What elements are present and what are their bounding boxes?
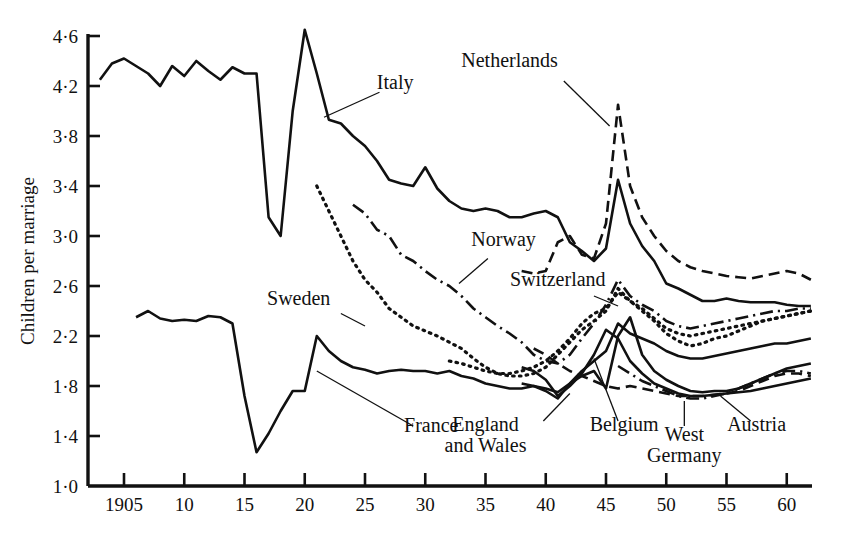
- x-axis-tick-label: 20: [295, 494, 314, 515]
- y-axis-tick-label: 3·8: [53, 126, 78, 147]
- y-axis-title: Children per marriage: [17, 177, 38, 345]
- series-label-england-and-wales: England: [452, 413, 519, 436]
- x-axis-tick-label: 45: [597, 494, 616, 515]
- x-axis-tick-label: 50: [657, 494, 676, 515]
- x-axis-tick-label: 1905: [105, 494, 143, 515]
- series-label-west-germany: West: [665, 423, 705, 445]
- series-label-switzerland: Switzerland: [510, 268, 606, 290]
- series-label-belgium: Belgium: [590, 413, 659, 436]
- x-axis-tick-label: 15: [235, 494, 254, 515]
- y-axis-tick-label: 1·8: [53, 376, 78, 397]
- series-label-norway: Norway: [471, 228, 535, 251]
- y-axis-tick-label: 4·6: [53, 26, 78, 47]
- y-axis-tick-label: 3·4: [53, 176, 79, 197]
- line-chart: 1·01·41·82·22·63·03·43·84·24·6 190510152…: [0, 0, 842, 540]
- y-axis-tick-label: 3·0: [53, 226, 78, 247]
- x-axis-tick-label: 60: [777, 494, 796, 515]
- chart-svg: 1·01·41·82·22·63·03·43·84·24·6 190510152…: [0, 0, 842, 540]
- x-axis-tick-label: 40: [536, 494, 555, 515]
- y-axis-title-text: Children per marriage: [17, 177, 38, 345]
- x-axis-tick-label: 25: [356, 494, 375, 515]
- x-axis-tick-label: 30: [416, 494, 435, 515]
- x-axis-tick-label: 10: [175, 494, 194, 515]
- series-label-austria: Austria: [727, 413, 786, 435]
- series-label-netherlands: Netherlands: [461, 49, 558, 71]
- series-label-sweden: Sweden: [267, 287, 330, 309]
- y-axis-tick-label: 2·6: [53, 276, 78, 297]
- y-axis-tick-label: 1·4: [53, 426, 79, 447]
- series-label-england-and-wales-line2: and Wales: [445, 434, 527, 456]
- series-label-west-germany-line2: Germany: [647, 444, 721, 467]
- series-label-france: France: [404, 414, 459, 436]
- y-axis-tick-label: 2·2: [53, 326, 78, 347]
- x-axis-tick-label: 35: [476, 494, 495, 515]
- chart-figure-root: 1·01·41·82·22·63·03·43·84·24·6 190510152…: [0, 0, 842, 540]
- series-label-italy: Italy: [377, 71, 414, 94]
- x-axis-tick-label: 55: [717, 494, 736, 515]
- y-axis-tick-label: 4·2: [53, 76, 78, 97]
- y-axis-tick-label: 1·0: [53, 476, 78, 497]
